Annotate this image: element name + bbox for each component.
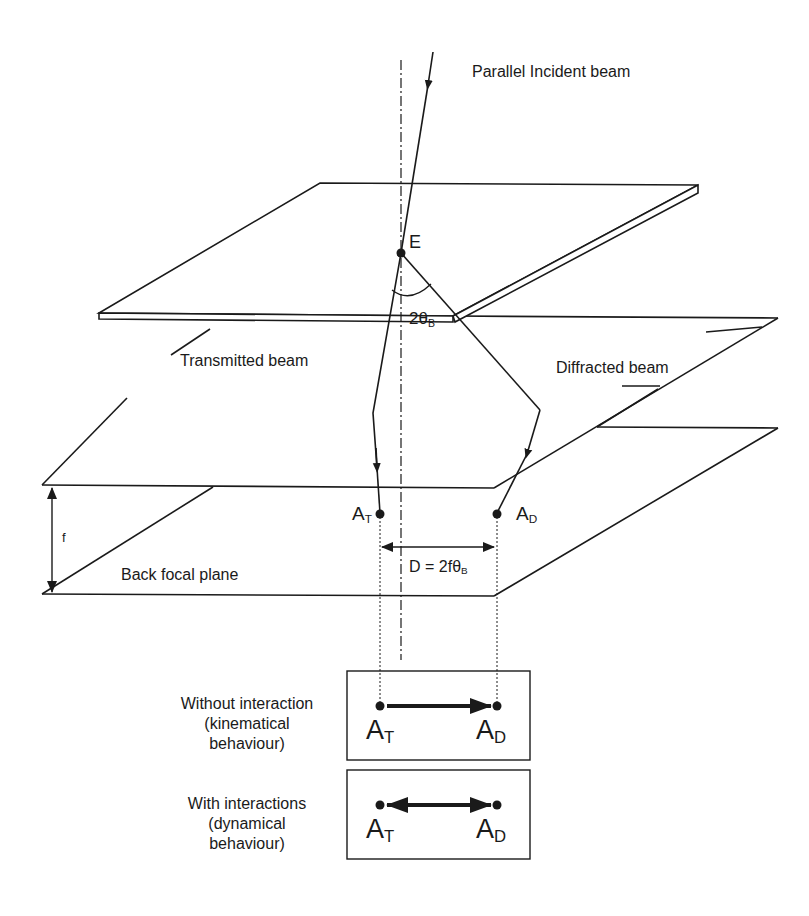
incident-beam <box>428 52 433 85</box>
kin-left-sub: T <box>384 728 394 747</box>
dyn-right-main: A <box>476 814 494 844</box>
dynamical-left-label: AT <box>366 816 394 846</box>
distance-equation-label: D = 2fθB <box>409 559 468 576</box>
kinematical-line3: behaviour) <box>162 734 332 754</box>
spot-t-main: A <box>352 503 365 524</box>
kinematical-line1: Without interaction <box>162 694 332 714</box>
kin-right-sub: D <box>494 728 506 747</box>
angle-label: 2θB <box>409 310 435 328</box>
kinematical-line2: (kinematical <box>162 714 332 734</box>
dyn-left-sub: T <box>384 827 394 846</box>
distance-eq-text: D = 2fθ <box>409 558 461 575</box>
transmitted-beam-label: Transmitted beam <box>180 353 308 369</box>
spot-transmitted <box>376 510 385 519</box>
kinematical-left-label: AT <box>366 717 394 747</box>
dynamical-line2: (dynamical <box>162 814 332 834</box>
angle-text: 2θ <box>409 309 428 328</box>
point-e <box>397 249 406 258</box>
lens-plane <box>42 316 778 488</box>
distance-eq-sub: B <box>461 565 468 576</box>
kin-left-main: A <box>366 715 384 745</box>
dynamical-line1: With interactions <box>162 794 332 814</box>
angle-sub: B <box>428 317 435 329</box>
spot-d-main: A <box>516 503 529 524</box>
kinematical-caption: Without interaction (kinematical behavio… <box>162 694 332 754</box>
diffracted-beam-label: Diffracted beam <box>556 360 669 376</box>
focal-length-label: f <box>62 531 66 544</box>
dynamical-right-label: AD <box>476 816 506 846</box>
incident-beam-label: Parallel Incident beam <box>472 64 630 80</box>
spot-diffracted-label: AD <box>516 504 537 525</box>
spot-d-sub: D <box>529 512 538 525</box>
kinematical-right-label: AD <box>476 717 506 747</box>
dyn-right-sub: D <box>494 827 506 846</box>
spot-transmitted-label: AT <box>352 504 372 525</box>
dynamical-line3: behaviour) <box>162 834 332 854</box>
kin-right-main: A <box>476 715 494 745</box>
point-e-label: E <box>409 233 421 251</box>
spot-diffracted <box>493 510 502 519</box>
diffraction-diagram <box>0 0 809 916</box>
dyn-left-main: A <box>366 814 384 844</box>
back-focal-plane-label: Back focal plane <box>121 567 238 583</box>
dynamical-caption: With interactions (dynamical behaviour) <box>162 794 332 854</box>
spot-t-sub: T <box>365 512 372 525</box>
